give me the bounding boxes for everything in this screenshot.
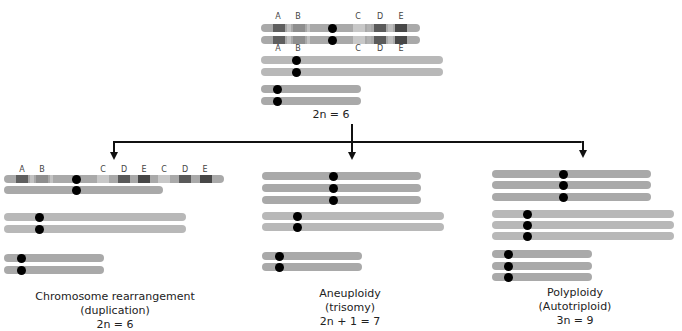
caption-subtitle: (Autotriploid)	[520, 300, 630, 314]
chromosome-2b	[492, 221, 674, 229]
caption-title: Chromosome rearrangement	[20, 290, 210, 304]
band-label-e: E	[138, 165, 150, 174]
band-label-e: E	[395, 12, 407, 21]
chromosome-2a	[492, 210, 674, 218]
caption-formula: 2n = 6	[20, 318, 210, 331]
chromosome-3b	[262, 263, 362, 271]
band-label-a: A	[272, 12, 284, 21]
band-label-b-bottom: B	[292, 44, 304, 53]
chromosome-1a	[492, 170, 651, 178]
band-label-d: D	[374, 12, 386, 21]
chromosome-2a	[261, 56, 443, 64]
band-label-b: B	[36, 165, 48, 174]
chromosome-2b	[4, 225, 186, 233]
chromosome-3a	[261, 85, 361, 93]
band-label-b: B	[292, 12, 304, 21]
caption-title: Aneuploidy	[300, 287, 400, 301]
chromosome-3b	[261, 97, 361, 105]
chromosome-1-normal	[4, 186, 163, 194]
chromosome-2a	[262, 212, 444, 220]
band-label-d-dup: D	[179, 165, 191, 174]
chromosome-2c	[492, 232, 674, 240]
caption-formula: 2n + 1 = 7	[300, 315, 400, 329]
autotriploid-caption: Polyploidy (Autotriploid) 3n = 9	[520, 286, 630, 328]
caption-title: Polyploidy	[520, 286, 630, 300]
chromosome-1a-banded	[261, 24, 420, 32]
chromosome-1c	[492, 193, 651, 201]
band-label-c-bottom: C	[352, 44, 364, 53]
chromosome-3b	[492, 262, 592, 270]
centromere	[328, 36, 337, 45]
band-label-a: A	[16, 165, 28, 174]
band-label-e-bottom: E	[395, 44, 407, 53]
chromosome-1-duplicated	[4, 175, 224, 183]
band-label-d-bottom: D	[374, 44, 386, 53]
band-label-c: C	[97, 165, 109, 174]
caption-formula: 3n = 9	[520, 314, 630, 328]
duplication-caption: Chromosome rearrangement (duplication) 2…	[20, 290, 210, 331]
centromere	[328, 24, 337, 33]
chromosome-3b	[4, 266, 104, 274]
chromosome-3a	[492, 250, 592, 258]
chromosome-1b	[492, 181, 651, 189]
band-label-a-bottom: A	[272, 44, 284, 53]
chromosome-1b	[262, 184, 421, 192]
parent-ploidy-label: 2n = 6	[301, 108, 361, 121]
band-label-d: D	[118, 165, 130, 174]
band-label-c: C	[352, 12, 364, 21]
chromosome-1c-extra	[262, 196, 421, 204]
chromosome-2b	[261, 68, 443, 76]
chromosome-3c	[492, 273, 592, 281]
trisomy-caption: Aneuploidy (trisomy) 2n + 1 = 7	[300, 287, 400, 329]
band-label-c-dup: C	[158, 165, 170, 174]
chromosome-2a	[4, 213, 186, 221]
caption-subtitle: (duplication)	[20, 304, 210, 318]
chromosome-2b	[262, 223, 444, 231]
chromosome-1b-banded	[261, 36, 420, 44]
centromere	[72, 175, 81, 184]
caption-subtitle: (trisomy)	[300, 301, 400, 315]
chromosome-1a	[262, 172, 421, 180]
chromosome-3a	[262, 252, 362, 260]
band-label-e-dup: E	[199, 165, 211, 174]
chromosome-3a	[4, 254, 104, 262]
